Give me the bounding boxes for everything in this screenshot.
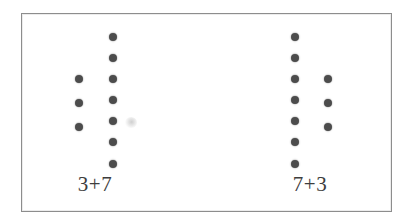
dot xyxy=(324,75,332,83)
figure-page: 3+77+3 xyxy=(0,0,412,224)
figure-frame-border: 3+77+3 xyxy=(21,13,392,212)
dot xyxy=(291,117,299,125)
dot xyxy=(291,138,299,146)
dot xyxy=(324,123,332,131)
expression-label-left: 3+7 xyxy=(78,174,112,195)
dot xyxy=(291,33,299,41)
dot xyxy=(291,75,299,83)
dot xyxy=(291,54,299,62)
dot xyxy=(324,99,332,107)
dot xyxy=(291,160,299,168)
dot xyxy=(291,96,299,104)
expression-label-right: 7+3 xyxy=(293,174,327,195)
